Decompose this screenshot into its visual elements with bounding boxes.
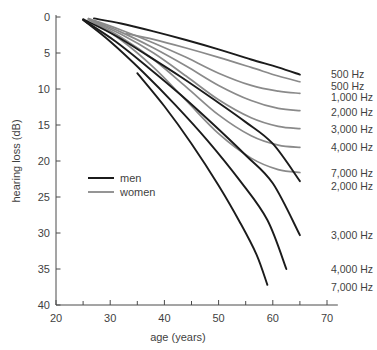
series-end-label: 7,000 Hz bbox=[331, 281, 373, 293]
series-curve bbox=[83, 20, 300, 235]
x-tick-label: 40 bbox=[158, 312, 170, 324]
series-end-label: 3,000 Hz bbox=[331, 123, 373, 135]
series-end-label: 500 Hz bbox=[331, 68, 364, 80]
series-end-label: 4,000 Hz bbox=[331, 263, 373, 275]
chart-legend: menwomen bbox=[88, 172, 155, 198]
x-tick-label: 30 bbox=[104, 312, 116, 324]
y-tick-label: 35 bbox=[38, 263, 50, 275]
y-tick-label: 5 bbox=[44, 47, 50, 59]
series-end-label: 2,000 Hz bbox=[331, 106, 373, 118]
y-tick-label: 15 bbox=[38, 119, 50, 131]
series-curves bbox=[83, 18, 300, 284]
series-curve bbox=[83, 19, 300, 181]
series-curve bbox=[137, 73, 267, 285]
y-tick-label: 25 bbox=[38, 191, 50, 203]
series-curve bbox=[89, 19, 300, 128]
series-end-labels: 500 Hz500 Hz1,000 Hz2,000 Hz3,000 Hz4,00… bbox=[331, 68, 373, 293]
x-tick-label: 60 bbox=[267, 312, 279, 324]
legend-label: women bbox=[119, 186, 155, 198]
series-curve bbox=[94, 18, 300, 74]
series-end-label: 7,000 Hz bbox=[331, 167, 373, 179]
y-tick-label: 40 bbox=[38, 299, 50, 311]
series-end-label: 3,000 Hz bbox=[331, 229, 373, 241]
series-end-label: 2,000 Hz bbox=[331, 180, 373, 192]
x-tick-label: 70 bbox=[321, 312, 333, 324]
y-tick-label: 10 bbox=[38, 83, 50, 95]
series-end-label: 1,000 Hz bbox=[331, 91, 373, 103]
y-tick-label: 20 bbox=[38, 155, 50, 167]
legend-label: men bbox=[120, 172, 141, 184]
hearing-loss-chart: 0510152025303540203040506070 500 Hz500 H… bbox=[0, 0, 377, 350]
x-tick-label: 20 bbox=[50, 312, 62, 324]
y-tick-label: 30 bbox=[38, 227, 50, 239]
x-tick-label: 50 bbox=[212, 312, 224, 324]
y-axis-title: hearing loss (dB) bbox=[10, 119, 22, 202]
y-tick-label: 0 bbox=[44, 11, 50, 23]
series-end-label: 4,000 Hz bbox=[331, 141, 373, 153]
x-axis-title: age (years) bbox=[150, 331, 206, 343]
chart-plot-area: 0510152025303540203040506070 500 Hz500 H… bbox=[0, 0, 377, 350]
